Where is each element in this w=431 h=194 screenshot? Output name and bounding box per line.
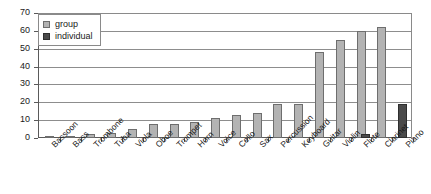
chart-legend: group individual [38,14,101,46]
y-tick-label-30: 30 [4,79,30,88]
bar-group [184,13,205,138]
bar-group-percussion [273,104,282,138]
bar-group [247,13,268,138]
bar-chart: 010203040506070 BassoonBassTromboneTubaV… [0,0,431,194]
bar-group [371,13,392,138]
y-tick-label-70: 70 [4,8,30,17]
bar-group [143,13,164,138]
group-swatch-icon [43,21,50,28]
legend-label-individual: individual [55,32,93,41]
bar-group [205,13,226,138]
y-tick-mark-0 [34,138,38,139]
individual-swatch-icon [43,33,50,40]
legend-label-group: group [55,20,78,29]
bar-group [351,13,372,138]
y-tick-label-50: 50 [4,44,30,53]
bar-group [122,13,143,138]
legend-item-individual: individual [43,30,93,42]
bar-group-flute [357,31,366,138]
legend-item-group: group [43,18,93,30]
y-tick-label-10: 10 [4,115,30,124]
y-tick-label-60: 60 [4,26,30,35]
y-tick-label-20: 20 [4,97,30,106]
bar-group [392,13,413,138]
bar-group-violin [336,40,345,138]
bar-group [268,13,289,138]
y-tick-label-40: 40 [4,62,30,71]
bar-group [330,13,351,138]
bar-group-clarinet [377,27,386,138]
bar-group [226,13,247,138]
y-tick-label-0: 0 [4,133,30,142]
bar-group [164,13,185,138]
